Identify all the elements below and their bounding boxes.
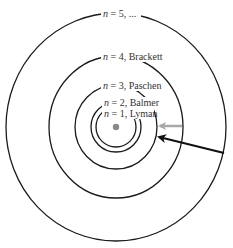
bohr-model-diagram: n = 1, Lymann = 2, Balmern = 3, Paschenn… bbox=[0, 0, 233, 248]
orbit-label-n4: n = 4, Brackett bbox=[101, 51, 165, 62]
black-transition-arrow bbox=[159, 137, 224, 153]
orbit-label-n2: n = 2, Balmer bbox=[102, 97, 160, 108]
nucleus-dot bbox=[113, 124, 119, 130]
orbit-label-n5: n = 5, ... bbox=[101, 8, 141, 19]
svg-text:n = 2, Balmer: n = 2, Balmer bbox=[104, 97, 160, 108]
orbit-label-n1: n = 1, Lyman bbox=[102, 108, 157, 119]
orbit-labels: n = 1, Lymann = 2, Balmern = 3, Paschenn… bbox=[101, 8, 165, 119]
svg-text:n = 5, ...: n = 5, ... bbox=[103, 8, 136, 19]
nucleus bbox=[113, 124, 119, 130]
svg-text:n = 1, Lyman: n = 1, Lyman bbox=[104, 108, 157, 119]
svg-text:n = 4, Brackett: n = 4, Brackett bbox=[103, 51, 163, 62]
svg-text:n = 3, Paschen: n = 3, Paschen bbox=[103, 80, 161, 91]
transition-arrows bbox=[159, 126, 224, 153]
orbit-label-n3: n = 3, Paschen bbox=[101, 80, 163, 91]
